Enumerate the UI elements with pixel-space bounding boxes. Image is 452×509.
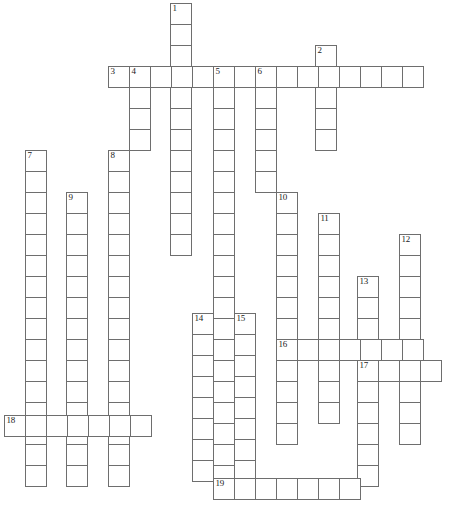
crossword-cell[interactable]: [276, 423, 298, 445]
crossword-cell[interactable]: [276, 234, 298, 256]
crossword-cell[interactable]: [66, 255, 88, 277]
crossword-cell[interactable]: [108, 276, 130, 298]
crossword-cell-start-10[interactable]: 10: [276, 192, 298, 214]
crossword-cell-start-12[interactable]: 12: [399, 234, 421, 256]
crossword-cell[interactable]: [399, 276, 421, 298]
crossword-cell[interactable]: [276, 381, 298, 403]
crossword-cell[interactable]: [108, 381, 130, 403]
crossword-cell[interactable]: [88, 415, 110, 437]
crossword-cell[interactable]: [170, 192, 192, 214]
crossword-cell[interactable]: [108, 360, 130, 382]
crossword-cell[interactable]: [297, 478, 319, 500]
crossword-cell[interactable]: [399, 318, 421, 340]
crossword-cell[interactable]: [66, 276, 88, 298]
crossword-cell[interactable]: [66, 339, 88, 361]
crossword-cell[interactable]: [108, 444, 130, 466]
crossword-cell[interactable]: [25, 234, 47, 256]
crossword-cell[interactable]: [402, 339, 424, 361]
crossword-cell[interactable]: [402, 66, 424, 88]
crossword-cell[interactable]: [213, 108, 235, 130]
crossword-cell[interactable]: [234, 355, 256, 377]
crossword-cell-start-4[interactable]: 4: [129, 66, 151, 88]
crossword-cell[interactable]: [25, 465, 47, 487]
crossword-cell[interactable]: [255, 478, 277, 500]
crossword-cell-start-1[interactable]: 1: [170, 3, 192, 25]
crossword-cell[interactable]: [339, 339, 361, 361]
crossword-cell[interactable]: [170, 129, 192, 151]
crossword-cell[interactable]: [150, 66, 172, 88]
crossword-cell[interactable]: [234, 478, 256, 500]
crossword-cell[interactable]: [108, 234, 130, 256]
crossword-cell[interactable]: [318, 66, 340, 88]
crossword-cell-start-14[interactable]: 14: [192, 313, 214, 335]
crossword-cell[interactable]: [297, 66, 319, 88]
crossword-cell-start-3[interactable]: 3: [108, 66, 130, 88]
crossword-cell[interactable]: [234, 66, 256, 88]
crossword-cell[interactable]: [130, 415, 152, 437]
crossword-cell[interactable]: [25, 339, 47, 361]
crossword-cell[interactable]: [399, 297, 421, 319]
crossword-puzzle-grid[interactable]: 12345678910161112131714151819: [0, 0, 452, 509]
crossword-cell[interactable]: [66, 297, 88, 319]
crossword-cell[interactable]: [399, 360, 421, 382]
crossword-cell[interactable]: [255, 171, 277, 193]
crossword-cell[interactable]: [360, 66, 382, 88]
crossword-cell[interactable]: [276, 66, 298, 88]
crossword-cell[interactable]: [234, 334, 256, 356]
crossword-cell[interactable]: [399, 255, 421, 277]
crossword-cell[interactable]: [357, 318, 379, 340]
crossword-cell[interactable]: [213, 255, 235, 277]
crossword-cell[interactable]: [25, 360, 47, 382]
crossword-cell[interactable]: [255, 150, 277, 172]
crossword-cell[interactable]: [318, 339, 340, 361]
crossword-cell[interactable]: [108, 171, 130, 193]
crossword-cell[interactable]: [357, 381, 379, 403]
crossword-cell[interactable]: [108, 465, 130, 487]
crossword-cell[interactable]: [234, 439, 256, 461]
crossword-cell-start-2[interactable]: 2: [315, 45, 337, 67]
crossword-cell[interactable]: [213, 87, 235, 109]
crossword-cell[interactable]: [213, 129, 235, 151]
crossword-cell-start-11[interactable]: 11: [318, 213, 340, 235]
crossword-cell[interactable]: [170, 24, 192, 46]
crossword-cell[interactable]: [213, 402, 235, 424]
crossword-cell[interactable]: [318, 478, 340, 500]
crossword-cell[interactable]: [276, 360, 298, 382]
crossword-cell-start-18[interactable]: 18: [4, 415, 26, 437]
crossword-cell[interactable]: [108, 213, 130, 235]
crossword-cell[interactable]: [170, 171, 192, 193]
crossword-cell[interactable]: [213, 192, 235, 214]
crossword-cell[interactable]: [234, 376, 256, 398]
crossword-cell[interactable]: [46, 415, 68, 437]
crossword-cell[interactable]: [276, 478, 298, 500]
crossword-cell-start-15[interactable]: 15: [234, 313, 256, 335]
crossword-cell[interactable]: [297, 339, 319, 361]
crossword-cell[interactable]: [170, 234, 192, 256]
crossword-cell[interactable]: [25, 171, 47, 193]
crossword-cell[interactable]: [315, 129, 337, 151]
crossword-cell[interactable]: [381, 339, 403, 361]
crossword-cell[interactable]: [25, 192, 47, 214]
crossword-cell[interactable]: [213, 297, 235, 319]
crossword-cell[interactable]: [399, 423, 421, 445]
crossword-cell[interactable]: [108, 255, 130, 277]
crossword-cell[interactable]: [276, 318, 298, 340]
crossword-cell[interactable]: [170, 108, 192, 130]
crossword-cell[interactable]: [25, 318, 47, 340]
crossword-cell[interactable]: [318, 276, 340, 298]
crossword-cell[interactable]: [339, 478, 361, 500]
crossword-cell-start-19[interactable]: 19: [213, 478, 235, 500]
crossword-cell[interactable]: [192, 355, 214, 377]
crossword-cell[interactable]: [213, 339, 235, 361]
crossword-cell[interactable]: [276, 276, 298, 298]
crossword-cell[interactable]: [170, 213, 192, 235]
crossword-cell[interactable]: [192, 376, 214, 398]
crossword-cell[interactable]: [192, 397, 214, 419]
crossword-cell[interactable]: [213, 150, 235, 172]
crossword-cell[interactable]: [360, 339, 382, 361]
crossword-cell[interactable]: [25, 381, 47, 403]
crossword-cell[interactable]: [108, 339, 130, 361]
crossword-cell[interactable]: [25, 213, 47, 235]
crossword-cell[interactable]: [66, 234, 88, 256]
crossword-cell-start-9[interactable]: 9: [66, 192, 88, 214]
